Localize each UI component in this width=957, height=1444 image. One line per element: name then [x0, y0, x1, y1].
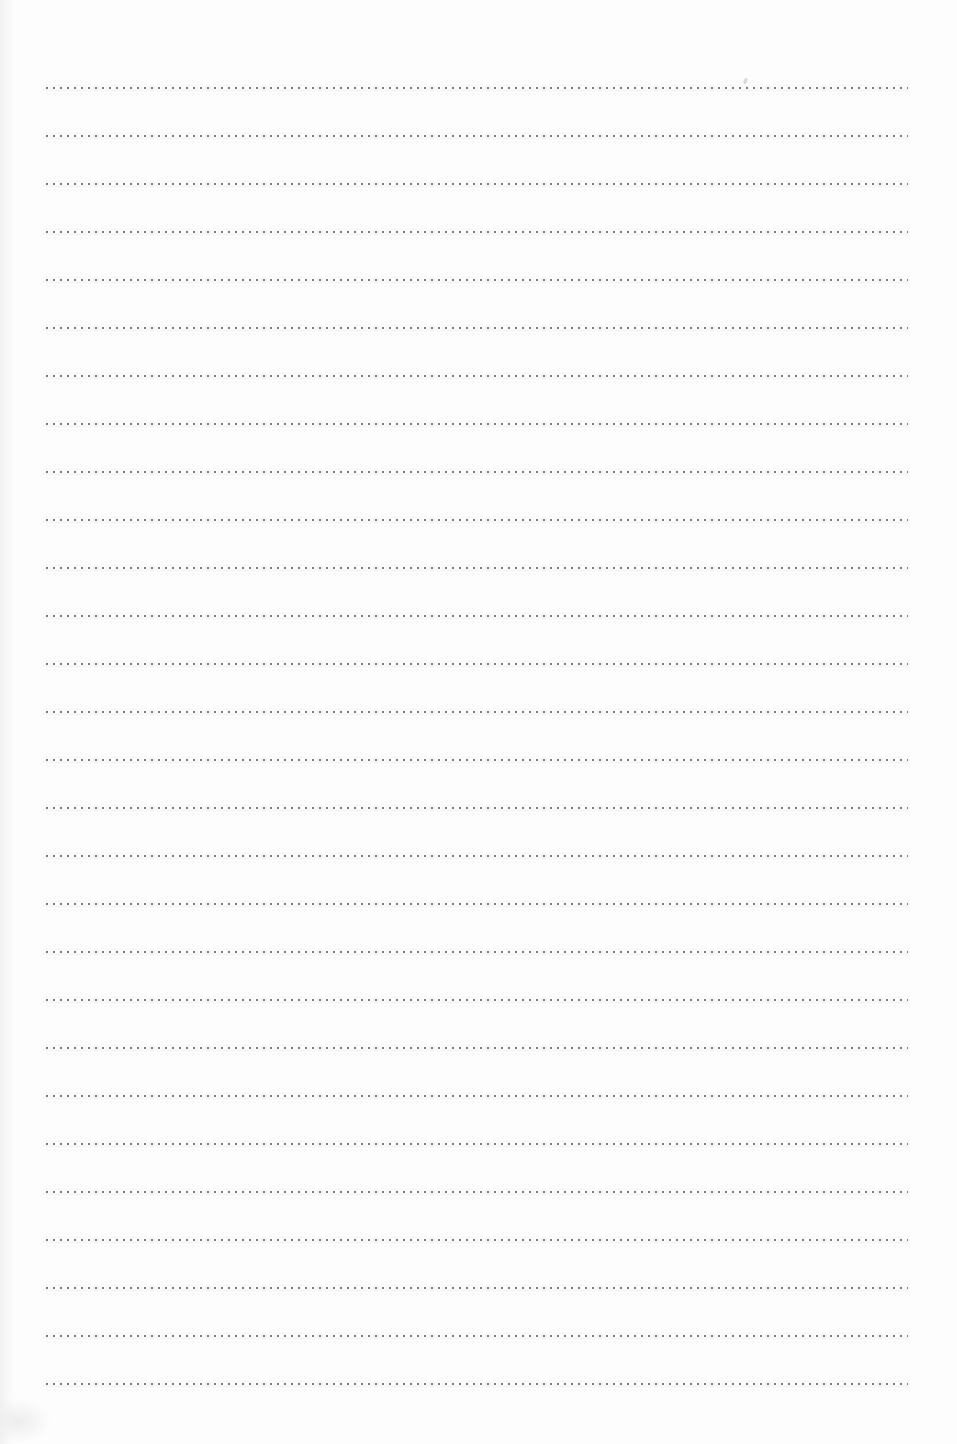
dotted-line	[46, 519, 908, 521]
dotted-line	[46, 1383, 908, 1385]
dotted-line	[46, 1047, 908, 1049]
dotted-line	[46, 663, 908, 665]
dotted-line	[46, 135, 908, 137]
notebook-page	[0, 0, 957, 1444]
dotted-line	[46, 231, 908, 233]
dotted-line	[46, 375, 908, 377]
dotted-line	[46, 87, 908, 89]
dotted-line	[46, 1287, 908, 1289]
dotted-line	[46, 183, 908, 185]
dotted-line	[46, 1335, 908, 1337]
dotted-line	[46, 1191, 908, 1193]
dotted-line	[46, 1239, 908, 1241]
dotted-line	[46, 615, 908, 617]
ruled-lines-container	[0, 0, 957, 1444]
dotted-line	[46, 999, 908, 1001]
dotted-line	[46, 855, 908, 857]
dotted-line	[46, 423, 908, 425]
dotted-line	[46, 1095, 908, 1097]
dotted-line	[46, 807, 908, 809]
dotted-line	[46, 279, 908, 281]
dotted-line	[46, 327, 908, 329]
dotted-line	[46, 1143, 908, 1145]
dotted-line	[46, 759, 908, 761]
dotted-line	[46, 567, 908, 569]
dotted-line	[46, 951, 908, 953]
dotted-line	[46, 903, 908, 905]
dotted-line	[46, 711, 908, 713]
dotted-line	[46, 471, 908, 473]
